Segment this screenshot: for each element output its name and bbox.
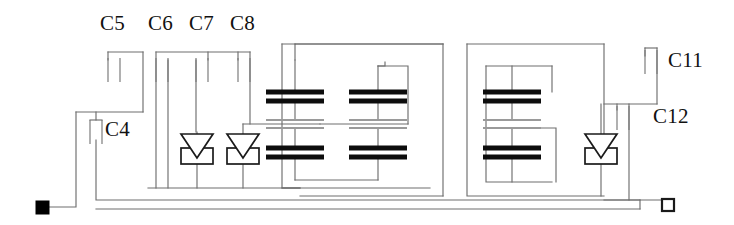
terminal-right-hollow[interactable] bbox=[662, 199, 674, 211]
label-c5: C5 bbox=[100, 11, 125, 35]
wire-stack2-top-loop bbox=[378, 62, 385, 66]
schematic-canvas: C5 C6 C7 C8 C4 C11 C12 bbox=[0, 0, 734, 225]
diode-3[interactable] bbox=[582, 128, 620, 168]
capacitor-stacks-group bbox=[262, 84, 545, 160]
capacitor-stack-2[interactable] bbox=[345, 84, 411, 160]
capacitor-c7[interactable] bbox=[188, 48, 216, 86]
capacitor-c5[interactable] bbox=[100, 48, 128, 86]
label-c7: C7 bbox=[189, 11, 214, 35]
capacitor-c11[interactable] bbox=[638, 44, 666, 82]
label-c8: C8 bbox=[230, 11, 255, 35]
label-c12: C12 bbox=[653, 104, 689, 128]
capacitor-stack-1[interactable] bbox=[262, 84, 328, 160]
label-c6: C6 bbox=[148, 11, 173, 35]
capacitor-c8[interactable] bbox=[230, 48, 258, 86]
label-c11: C11 bbox=[668, 48, 703, 72]
circuit-schematic: C5 C6 C7 C8 C4 C11 C12 bbox=[0, 0, 734, 225]
capacitor-stack-3[interactable] bbox=[479, 84, 545, 160]
wire-left-rail bbox=[48, 112, 76, 207]
wire-stack1-top-loop bbox=[295, 44, 443, 60]
diode-2[interactable] bbox=[224, 128, 262, 168]
terminal-left-filled[interactable] bbox=[36, 201, 49, 214]
diode-1[interactable] bbox=[178, 128, 216, 168]
capacitor-c6[interactable] bbox=[148, 48, 176, 86]
terminals-group bbox=[36, 199, 674, 214]
label-c4: C4 bbox=[105, 117, 130, 141]
